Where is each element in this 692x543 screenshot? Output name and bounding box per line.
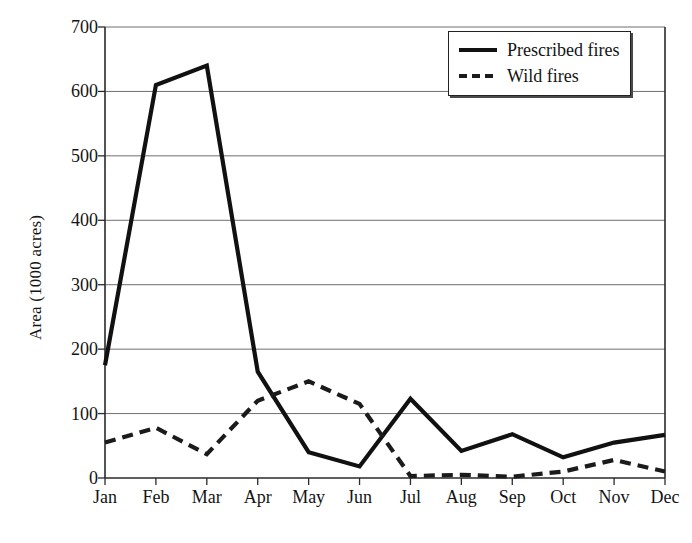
x-tick-label: Jun	[347, 487, 372, 507]
legend-swatch-dashed-line-icon	[458, 69, 498, 83]
x-axis-tick-labels: JanFebMarAprMayJunJulAugSepOctNovDec	[105, 487, 665, 517]
x-tick-label: Nov	[599, 487, 630, 507]
legend-swatch-solid-line-icon	[458, 43, 498, 57]
x-tick-label: May	[292, 487, 325, 507]
x-tick-label: Aug	[446, 487, 477, 507]
x-tick-label: Apr	[244, 487, 272, 507]
x-tick-label: Jul	[400, 487, 421, 507]
x-tick-label: Dec	[651, 487, 680, 507]
x-tick-label: Jan	[93, 487, 117, 507]
legend-label-prescribed-fires: Prescribed fires	[507, 40, 619, 60]
x-tick-label: Oct	[550, 487, 576, 507]
legend-item-prescribed-fires: Prescribed fires	[458, 37, 619, 63]
legend-item-wild-fires: Wild fires	[458, 63, 619, 89]
series-prescribed-fires	[105, 66, 665, 467]
line-chart: Area (1000 acres) 0100200300400500600700…	[0, 0, 692, 543]
x-tick-label: Feb	[142, 487, 169, 507]
series-wild-fires	[105, 381, 665, 476]
x-tick-label: Mar	[192, 487, 222, 507]
legend-label-wild-fires: Wild fires	[507, 66, 579, 86]
chart-legend: Prescribed fires Wild fires	[448, 31, 631, 96]
x-tick-label: Sep	[499, 487, 526, 507]
